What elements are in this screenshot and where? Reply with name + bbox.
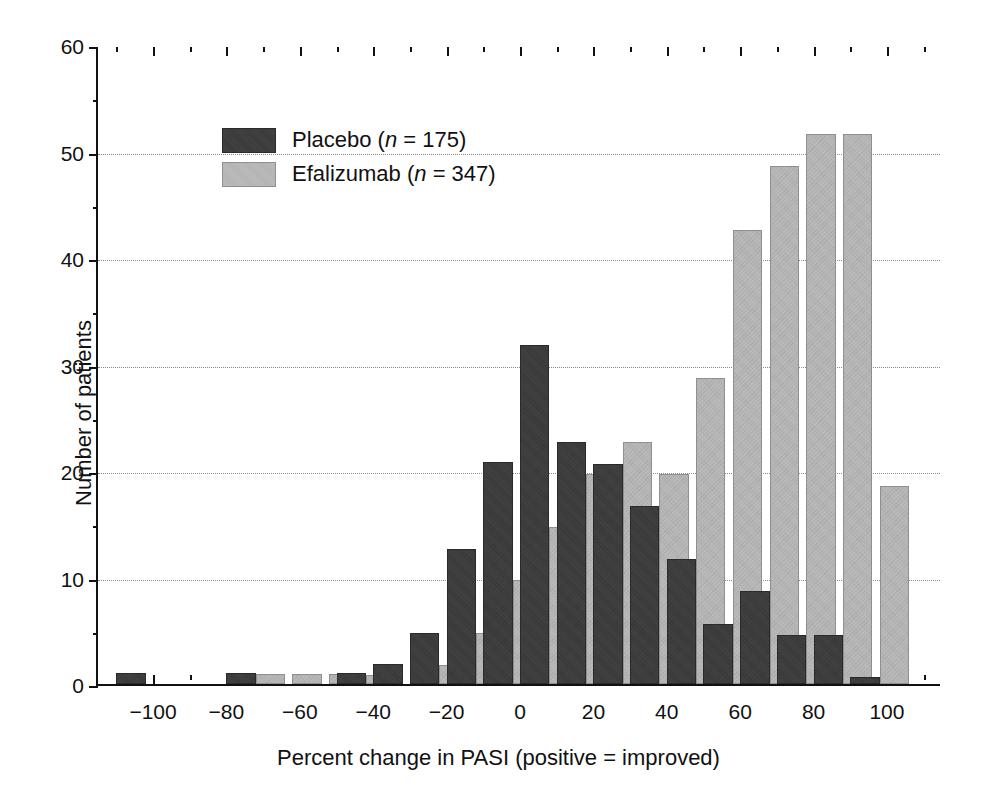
x-tick-label-80: 80 — [802, 700, 825, 724]
y-tick-10 — [89, 580, 98, 582]
legend-item-placebo: Placebo (n = 175) — [222, 125, 496, 155]
bar-placebo--105 — [116, 673, 145, 684]
x-tick-label-100: 100 — [869, 700, 904, 724]
x-tick-label-0: 0 — [514, 700, 526, 724]
legend-label-efalizumab: Efalizumab (n = 347) — [292, 161, 496, 187]
bar-efalizumab-75 — [806, 134, 835, 684]
bar-placebo-5 — [520, 345, 549, 684]
bar-placebo--45 — [337, 673, 366, 684]
x-tick-label--20: −20 — [429, 700, 465, 724]
y-tick-label-50: 50 — [61, 142, 84, 166]
x-tick-label--60: −60 — [282, 700, 318, 724]
legend-label-placebo: Placebo (n = 175) — [292, 127, 466, 153]
y-tick-label-40: 40 — [61, 248, 84, 272]
bar-placebo--75 — [226, 673, 255, 684]
x-tick-label--80: −80 — [209, 700, 245, 724]
x-tick-label-20: 20 — [582, 700, 605, 724]
bar-placebo-15 — [557, 442, 586, 684]
bar-placebo-85 — [814, 635, 843, 684]
legend-item-efalizumab: Efalizumab (n = 347) — [222, 159, 496, 189]
y-tick-60 — [89, 47, 98, 49]
bar-placebo-95 — [850, 677, 879, 684]
y-tick-label-60: 60 — [61, 35, 84, 59]
x-axis-title: Percent change in PASI (positive = impro… — [0, 745, 997, 771]
bar-placebo-65 — [740, 591, 769, 684]
bar-efalizumab-95 — [880, 486, 909, 684]
legend-swatch-placebo — [222, 128, 276, 153]
bar-placebo--35 — [373, 664, 402, 684]
bar-efalizumab--65 — [292, 674, 321, 684]
x-tick-label-60: 60 — [728, 700, 751, 724]
x-tick-label--100: −100 — [129, 700, 176, 724]
bar-placebo-25 — [593, 464, 622, 684]
y-tick-50 — [89, 154, 98, 156]
bar-placebo-55 — [703, 624, 732, 684]
figure-container: 0102030405060 −100−80−60−40−200204060801… — [0, 0, 997, 788]
bar-placebo-75 — [777, 635, 806, 684]
y-tick-label-0: 0 — [72, 674, 84, 698]
x-tick-label--40: −40 — [355, 700, 391, 724]
bar-efalizumab--75 — [256, 674, 285, 684]
bar-efalizumab-65 — [770, 166, 799, 684]
bar-placebo--15 — [447, 549, 476, 684]
y-axis-title: Number of patients — [71, 320, 97, 506]
bar-placebo-45 — [667, 559, 696, 684]
y-tick-label-10: 10 — [61, 568, 84, 592]
legend-swatch-efalizumab — [222, 162, 276, 187]
bar-efalizumab-85 — [843, 134, 872, 684]
x-tick-label-40: 40 — [655, 700, 678, 724]
bar-placebo-35 — [630, 506, 659, 684]
bar-placebo--5 — [483, 462, 512, 684]
legend: Placebo (n = 175) Efalizumab (n = 347) — [222, 125, 496, 193]
plot-area: 0102030405060 −100−80−60−40−200204060801… — [96, 47, 940, 686]
bar-placebo--25 — [410, 633, 439, 684]
y-tick-40 — [89, 260, 98, 262]
y-tick-0 — [89, 686, 98, 688]
